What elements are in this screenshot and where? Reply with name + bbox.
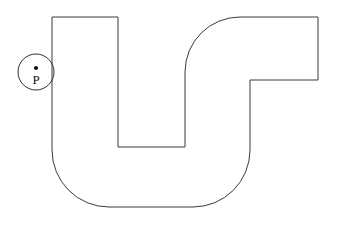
point-p-label: P — [32, 72, 39, 87]
point-p-marker: P — [18, 54, 54, 90]
point-p-dot — [34, 66, 38, 70]
geometry-figure: P — [0, 0, 338, 226]
u-shaped-track-outline — [52, 17, 318, 207]
figure-canvas: P — [0, 0, 338, 226]
